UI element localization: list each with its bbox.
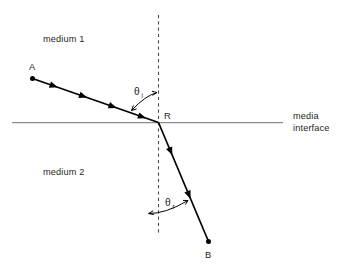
media-interface-label-line1: media [293, 111, 320, 121]
refraction-diagram: medium 1 medium 2 A B R media interface … [0, 0, 340, 268]
arrowhead-icon [137, 112, 147, 121]
refracted-ray [159, 123, 209, 242]
point-a-dot [30, 76, 35, 81]
theta-incident-label: θ i [134, 86, 144, 99]
point-a-label: A [29, 61, 36, 72]
medium-1-label: medium 1 [43, 34, 85, 44]
point-b-dot [206, 239, 211, 244]
arrowhead-icon [184, 190, 193, 200]
arrowhead-icon [49, 81, 59, 90]
point-b-label: B [205, 249, 211, 260]
theta-refracted-subscript: r [173, 203, 176, 210]
theta-r-arrow-left-icon [149, 211, 154, 215]
theta-refracted-symbol: θ [165, 197, 171, 208]
point-r-label: R [164, 110, 171, 121]
arrowhead-icon [108, 102, 118, 111]
arrowhead-icon [78, 92, 88, 101]
theta-incident-subscript: i [142, 92, 144, 99]
media-interface-label-line2: interface [293, 123, 330, 133]
medium-2-label: medium 2 [43, 167, 85, 177]
theta-refracted-label: θ r [165, 197, 176, 210]
theta-incident-symbol: θ [134, 86, 140, 97]
arrowhead-icon [166, 146, 175, 156]
